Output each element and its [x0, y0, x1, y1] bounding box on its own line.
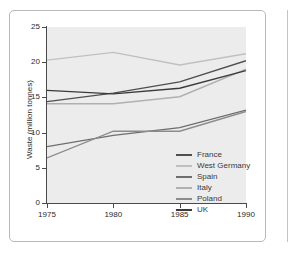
legend-color-swatch [176, 176, 192, 178]
x-tick-mark [113, 204, 114, 208]
legend-color-swatch [176, 209, 192, 211]
series-line [47, 69, 246, 103]
y-tick-mark [42, 97, 47, 98]
y-axis-title: Waste (million tonnes) [25, 60, 34, 180]
y-tick-label: 25 [10, 23, 40, 31]
legend-item: UK [176, 204, 268, 215]
x-tick-label: 1980 [93, 210, 133, 219]
legend-item-label: France [197, 150, 222, 159]
y-tick-mark [42, 27, 47, 28]
series-line [47, 52, 246, 65]
legend-color-swatch [176, 198, 192, 200]
legend-item-label: Italy [197, 183, 212, 192]
series-line [47, 110, 246, 147]
adjacent-page-edge [287, 10, 303, 242]
y-axis-line [46, 26, 47, 204]
legend-color-swatch [176, 154, 192, 156]
chart-legend: FranceWest GermanySpainItalyPolandUK [176, 149, 268, 215]
x-tick-mark [47, 204, 48, 208]
chart-page: 0510152025 1975198019851990 Waste (milli… [0, 0, 303, 255]
y-tick-mark [42, 62, 47, 63]
legend-item-label: Poland [197, 194, 222, 203]
y-tick-mark [42, 168, 47, 169]
legend-item-label: UK [197, 205, 208, 214]
legend-item: Spain [176, 171, 268, 182]
legend-item-label: West Germany [197, 161, 250, 170]
legend-color-swatch [176, 165, 192, 167]
x-tick-label: 1975 [27, 210, 67, 219]
line-chart: 0510152025 1975198019851990 Waste (milli… [9, 10, 266, 242]
y-tick-label: 0 [10, 199, 40, 207]
y-tick-mark [42, 133, 47, 134]
legend-item: Poland [176, 193, 268, 204]
legend-item-label: Spain [197, 172, 217, 181]
legend-item: West Germany [176, 160, 268, 171]
legend-item: France [176, 149, 268, 160]
legend-item: Italy [176, 182, 268, 193]
legend-color-swatch [176, 187, 192, 189]
